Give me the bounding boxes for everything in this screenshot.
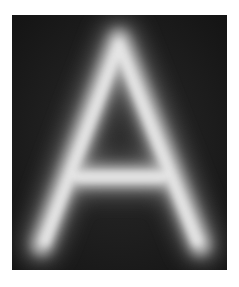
glowing-letter-graphic bbox=[12, 15, 227, 270]
image-frame bbox=[12, 15, 227, 270]
